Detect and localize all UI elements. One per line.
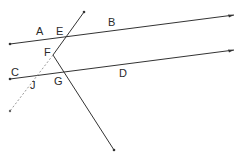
line-ab-left-endpoint <box>9 43 12 46</box>
line-cd-arrowhead <box>228 50 234 53</box>
line-ab-arrowhead <box>228 15 234 18</box>
label-b: B <box>108 16 115 28</box>
geometry-diagram: A E B F C D J G <box>0 0 243 163</box>
line-ab <box>10 15 234 44</box>
line-cd-left-endpoint <box>9 78 12 81</box>
label-g: G <box>54 75 63 87</box>
label-f: F <box>44 46 51 58</box>
label-a: A <box>36 25 44 37</box>
label-c: C <box>11 66 19 78</box>
transversal-bottom-endpoint <box>113 149 116 152</box>
transversal-top-endpoint <box>83 11 86 14</box>
label-e: E <box>56 25 63 37</box>
dashed-endpoint <box>9 110 11 112</box>
label-d: D <box>119 67 127 79</box>
label-j: J <box>30 79 36 91</box>
